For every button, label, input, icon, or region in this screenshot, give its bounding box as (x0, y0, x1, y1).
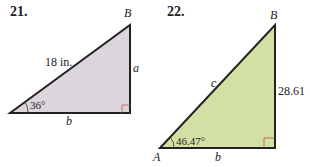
problem-number-21: 21. (10, 4, 28, 20)
vertex-label-a-22: A (153, 150, 160, 165)
side-b-label-22: b (215, 150, 221, 165)
side-a-label-21: a (133, 61, 139, 76)
vertex-label-b-22: B (270, 8, 277, 23)
angle-label-22: 46.47° (176, 135, 205, 147)
side-vertical-label-22: 28.61 (278, 84, 305, 99)
hypotenuse-label-22: c (211, 76, 216, 91)
problem-number-22: 22. (167, 4, 185, 20)
figures-canvas (0, 0, 310, 167)
vertex-label-b-21: B (124, 6, 131, 21)
hypotenuse-label-21: 18 in. (45, 55, 72, 70)
side-b-label-21: b (66, 114, 72, 129)
triangle-22 (160, 25, 275, 148)
angle-label-21: 36° (30, 99, 45, 111)
